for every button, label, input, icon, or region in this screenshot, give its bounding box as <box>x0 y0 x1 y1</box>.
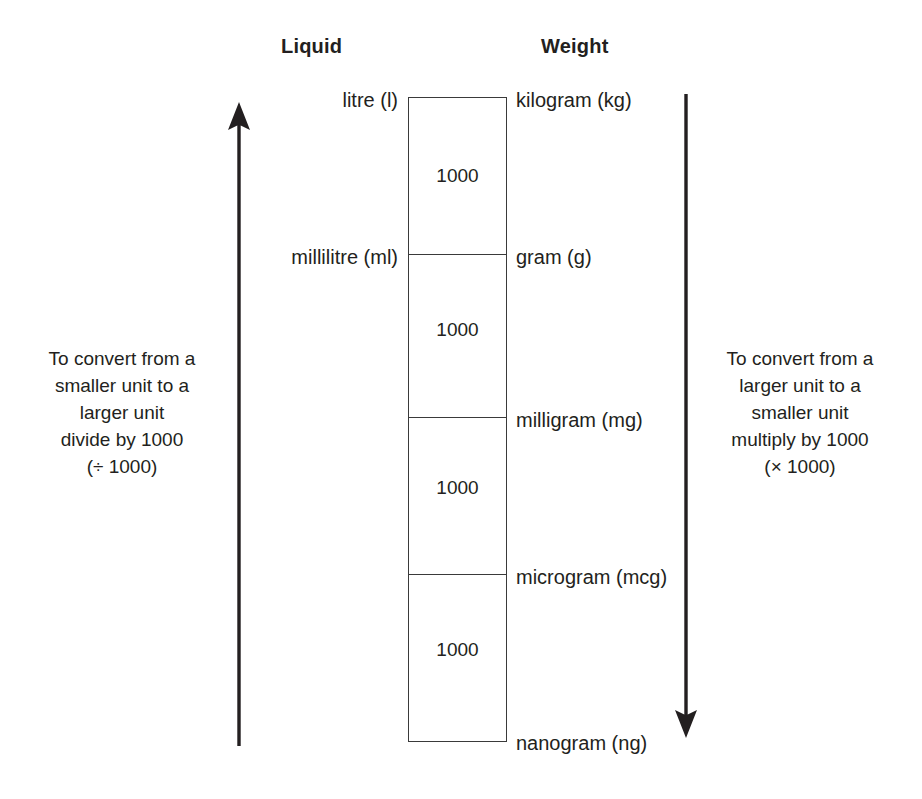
column-header-weight: Weight <box>541 35 609 58</box>
column-header-liquid: Liquid <box>281 35 342 58</box>
arrow-up-icon <box>222 92 258 748</box>
ladder-factor: 1000 <box>408 640 507 659</box>
unit-label-microgram: microgram (mcg) <box>516 567 667 587</box>
note-right-line-3: smaller unit <box>700 399 900 426</box>
unit-label-litre: litre (l) <box>342 90 398 110</box>
unit-label-milligram: milligram (mg) <box>516 410 643 430</box>
note-right-line-4: multiply by 1000 <box>700 426 900 453</box>
ladder-divider <box>408 574 507 575</box>
ladder-factor: 1000 <box>408 166 507 185</box>
ladder-divider <box>408 417 507 418</box>
note-left-line-5: (÷ 1000) <box>22 453 222 480</box>
unit-label-millilitre: millilitre (ml) <box>291 247 398 267</box>
diagram-canvas: Liquid Weight litre (l) millilitre (ml) … <box>0 0 922 799</box>
ladder-divider <box>408 254 507 255</box>
ladder-factor: 1000 <box>408 478 507 497</box>
note-right-line-2: larger unit to a <box>700 372 900 399</box>
note-left-line-3: larger unit <box>22 399 222 426</box>
note-left-line-2: smaller unit to a <box>22 372 222 399</box>
ladder-factor: 1000 <box>408 320 507 339</box>
unit-label-kilogram: kilogram (kg) <box>516 90 632 110</box>
note-smaller-to-larger: To convert from a smaller unit to a larg… <box>22 345 222 480</box>
unit-label-gram: gram (g) <box>516 247 592 267</box>
note-larger-to-smaller: To convert from a larger unit to a small… <box>700 345 900 480</box>
unit-label-nanogram: nanogram (ng) <box>516 733 647 753</box>
note-right-line-5: (× 1000) <box>700 453 900 480</box>
note-left-line-4: divide by 1000 <box>22 426 222 453</box>
note-right-line-1: To convert from a <box>700 345 900 372</box>
note-left-line-1: To convert from a <box>22 345 222 372</box>
